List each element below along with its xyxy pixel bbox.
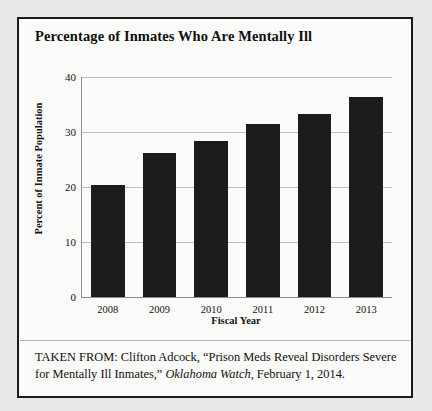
source-caption: TAKEN FROM: Clifton Adcock, “Prison Meds…: [35, 349, 397, 383]
bar-2008: [91, 185, 125, 297]
x-tick-label: 2009: [149, 304, 170, 315]
bar-2012: [298, 114, 332, 297]
y-tick-label: 0: [71, 291, 77, 303]
caption-divider: [20, 340, 410, 341]
chart-title: Percentage of Inmates Who Are Mentally I…: [35, 28, 312, 45]
x-tick-label: 2012: [304, 304, 325, 315]
bar-2011: [246, 124, 280, 297]
gridline: [82, 242, 392, 243]
x-tick-label: 2013: [356, 304, 377, 315]
y-tick-label: 40: [65, 71, 76, 83]
bar-2009: [143, 153, 177, 297]
caption-source-name: Oklahoma Watch: [165, 367, 250, 381]
y-tick-label: 10: [65, 236, 76, 248]
x-tick-label: 2011: [253, 304, 274, 315]
gridline: [82, 132, 392, 133]
plot-area: 010203040 200820092010201120122013: [81, 77, 392, 298]
x-tick-label: 2010: [201, 304, 222, 315]
bar-2010: [194, 141, 228, 297]
gridline: [82, 187, 392, 188]
x-axis-label: Fiscal Year: [81, 315, 391, 326]
y-tick-label: 30: [65, 126, 76, 138]
chart-plot-region: Percent of Inmate Population 010203040 2…: [19, 57, 411, 337]
x-tick-label: 2008: [97, 304, 118, 315]
figure-frame: Percentage of Inmates Who Are Mentally I…: [17, 17, 413, 398]
caption-suffix-text: , February 1, 2014.: [251, 367, 345, 381]
y-axis-label: Percent of Inmate Population: [33, 89, 44, 249]
y-tick-label: 20: [65, 181, 76, 193]
bar-2013: [349, 97, 383, 297]
gridline: [82, 77, 392, 78]
